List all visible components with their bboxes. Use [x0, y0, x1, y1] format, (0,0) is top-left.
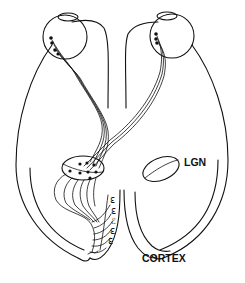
right-eye	[150, 12, 194, 58]
lgn-label: LGN	[184, 156, 206, 168]
visual-pathway-diagram: ℇ ℇ ℰ ℇ ℇ LGN CORTEX	[0, 0, 245, 283]
right-cortex-outline	[160, 160, 218, 250]
svg-text:ℇ: ℇ	[111, 207, 116, 216]
svg-text:ℇ: ℇ	[108, 237, 113, 246]
geniculocortical-fibers	[54, 174, 112, 253]
cortex-label: CORTEX	[142, 252, 186, 264]
right-inner-cortex	[135, 192, 170, 251]
left-eye	[43, 13, 87, 59]
right-midline-wall	[124, 190, 156, 258]
right-lgn	[139, 152, 182, 187]
svg-text:ℰ: ℰ	[111, 217, 116, 226]
left-cortex-outline	[30, 168, 84, 250]
left-lgn	[62, 156, 104, 180]
optic-fibers-left-eye	[52, 40, 108, 168]
svg-text:ℇ: ℇ	[110, 196, 115, 205]
svg-text:ℇ: ℇ	[110, 227, 115, 236]
